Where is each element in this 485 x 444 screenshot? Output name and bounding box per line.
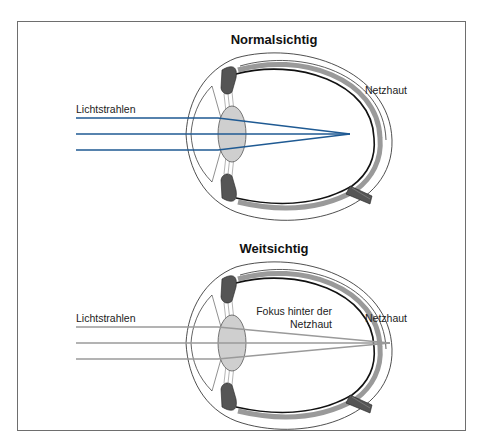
label-focus-line1: Fokus hinter der bbox=[256, 305, 332, 317]
light-rays bbox=[76, 118, 350, 150]
eye-illustration bbox=[186, 53, 392, 220]
label-netzhaut: Netzhaut bbox=[365, 312, 407, 324]
diagram-weitsichtig: Weitsichtig Lichtstrahlen Netzhaut Fokus… bbox=[76, 241, 407, 429]
diagram-title: Normalsichtig bbox=[231, 32, 318, 47]
label-lichtstrahlen: Lichtstrahlen bbox=[76, 103, 136, 115]
diagram-normalsichtig: Normalsichtig Lichtstrahlen Netzhaut bbox=[76, 32, 407, 220]
label-lichtstrahlen: Lichtstrahlen bbox=[76, 312, 136, 324]
label-focus-line2: Netzhaut bbox=[290, 318, 332, 330]
diagram-title: Weitsichtig bbox=[239, 241, 308, 256]
label-netzhaut: Netzhaut bbox=[365, 84, 407, 96]
eye-diagrams: Normalsichtig Lichtstrahlen Netzhaut Wei… bbox=[0, 0, 485, 444]
